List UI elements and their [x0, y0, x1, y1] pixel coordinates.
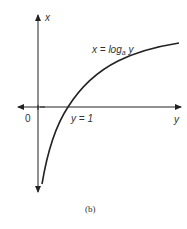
vertical-axis-label: x	[44, 12, 51, 23]
intercept-label: y = 1	[70, 113, 93, 124]
log-curve	[42, 43, 179, 184]
horizontal-axis-label: y	[173, 114, 180, 125]
equation-label: x = loga y	[91, 44, 134, 56]
equation-prefix: x = log	[91, 44, 122, 55]
log-graph: x y 0 y = 1 x = loga y (b)	[0, 0, 187, 229]
figure-caption: (b)	[85, 204, 96, 214]
equation-suffix: y	[126, 44, 135, 55]
origin-label: 0	[25, 113, 31, 124]
